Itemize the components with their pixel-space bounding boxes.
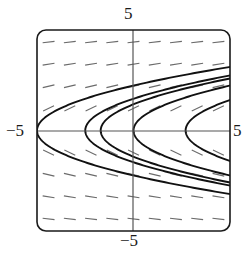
x-axis-max-label: 5 — [233, 121, 242, 141]
x-axis-min-label: −5 — [6, 121, 24, 141]
plot-canvas — [0, 0, 247, 257]
y-axis-max-label: 5 — [124, 4, 133, 24]
y-axis-min-label: −5 — [120, 231, 138, 251]
slope-field-figure: 5 −5 −5 5 — [0, 0, 247, 257]
